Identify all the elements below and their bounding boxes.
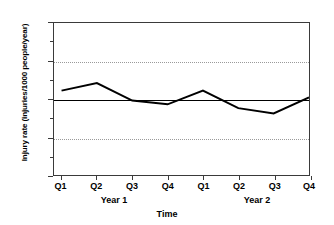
x-tick-mark-4 [203,176,204,180]
x-tick-mark-3 [168,176,169,180]
y-axis-label: Injury rate (injuries/1000 people/year) [20,3,29,183]
x-tick-label-q1-y2: Q1 [188,181,218,191]
x-tick-mark-0 [61,176,62,180]
data-series-line [54,23,309,175]
group-label-year-2: Year 2 [227,195,287,205]
x-tick-label-q2-y1: Q2 [81,181,111,191]
x-tick-label-q4-y2: Q4 [294,181,324,191]
x-tick-label-q3-y1: Q3 [117,181,147,191]
x-tick-label-q1-y1: Q1 [46,181,76,191]
x-tick-label-q4-y1: Q4 [153,181,183,191]
x-tick-mark-7 [311,176,312,180]
x-axis-label: Time [0,209,334,219]
x-tick-mark-6 [275,176,276,180]
x-tick-mark-2 [132,176,133,180]
x-tick-label-q2-y2: Q2 [224,181,254,191]
group-label-year-1: Year 1 [84,195,144,205]
x-tick-label-q3-y2: Q3 [260,181,290,191]
x-tick-mark-1 [96,176,97,180]
plot-area [53,22,310,176]
x-tick-mark-5 [239,176,240,180]
chart-figure: Injury rate (injuries/1000 people/year) … [0,0,334,225]
y-tick-mark-0 [48,176,53,177]
